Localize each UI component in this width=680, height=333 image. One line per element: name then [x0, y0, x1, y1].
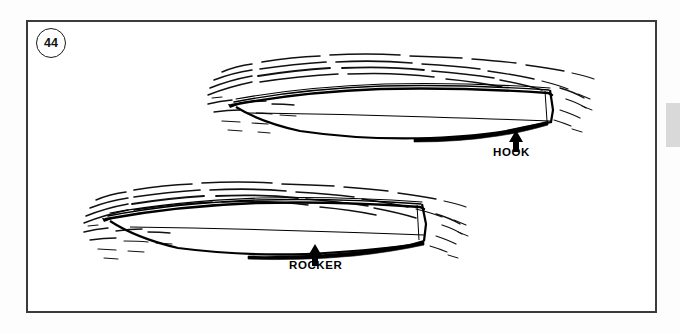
figure-number-badge: 44 [36, 28, 66, 58]
rocker-label: ROCKER [289, 259, 342, 271]
hook-label: HOOK [493, 146, 530, 158]
page-edge-tab [666, 103, 680, 147]
figure-page: 44 [0, 0, 680, 333]
